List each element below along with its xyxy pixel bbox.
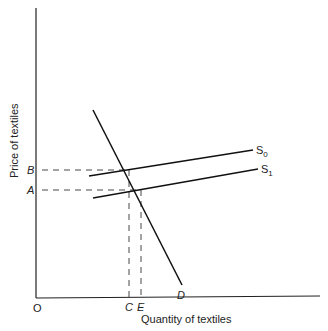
supply-demand-chart: S0 S1 D B A C E O Quantity of textiles P… xyxy=(0,0,328,331)
price-b-label: B xyxy=(27,164,34,176)
s1-label: S1 xyxy=(261,163,273,178)
supply-curve-s1 xyxy=(93,169,258,198)
d-label: D xyxy=(177,289,185,301)
s0-label: S0 xyxy=(256,144,268,159)
demand-curve xyxy=(93,110,182,285)
y-axis-title: Price of textiles xyxy=(8,103,20,178)
supply-curve-s0 xyxy=(89,150,253,176)
x-axis-title: Quantity of textiles xyxy=(141,313,232,325)
price-a-label: A xyxy=(26,184,34,196)
origin-label: O xyxy=(33,302,42,314)
quantity-e-label: E xyxy=(137,301,145,313)
quantity-c-label: C xyxy=(125,301,133,313)
